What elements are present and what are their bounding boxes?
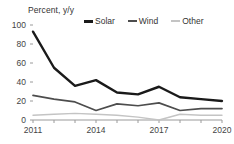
series-line-other [33,113,222,120]
series-line-solar [33,32,222,101]
chart-plot-area [0,0,234,144]
line-chart: Percent, y/y Solar Wind Other 0204060801… [0,0,234,144]
